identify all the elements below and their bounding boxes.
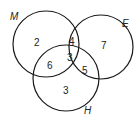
circle-h: [33, 45, 99, 111]
region-e-h: 5: [82, 65, 88, 76]
set-label-e: E: [122, 18, 129, 29]
region-e-only: 7: [101, 40, 107, 51]
venn-diagram: M E H 2 4 7 6 3 5 3: [0, 0, 138, 118]
region-h-only: 3: [63, 85, 69, 96]
venn-svg: M E H 2 4 7 6 3 5 3: [0, 0, 138, 118]
region-m-e-h: 3: [67, 52, 73, 63]
region-m-e: 4: [69, 36, 75, 47]
region-m-h: 6: [47, 60, 53, 71]
set-label-h: H: [84, 105, 92, 116]
region-m-only: 2: [34, 37, 40, 48]
set-label-m: M: [10, 11, 19, 22]
